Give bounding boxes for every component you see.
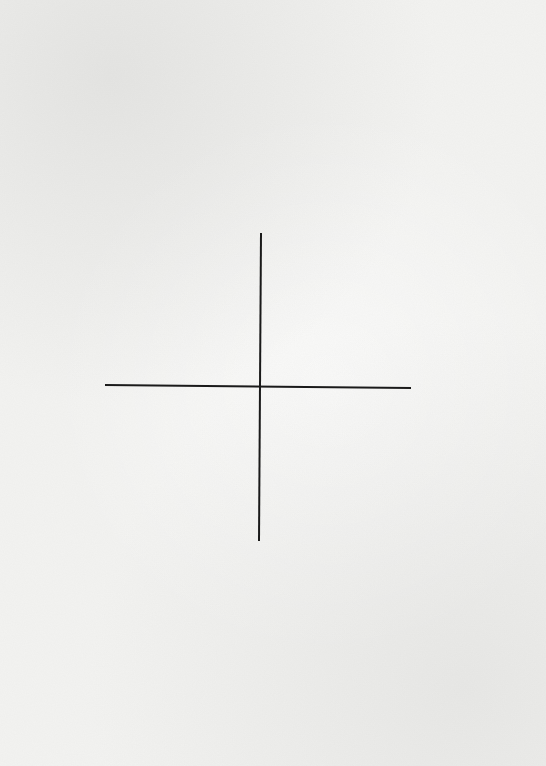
horizontal-axis-line: [105, 385, 411, 388]
axis-cross-diagram: [0, 0, 546, 766]
paper-canvas: [0, 0, 546, 766]
